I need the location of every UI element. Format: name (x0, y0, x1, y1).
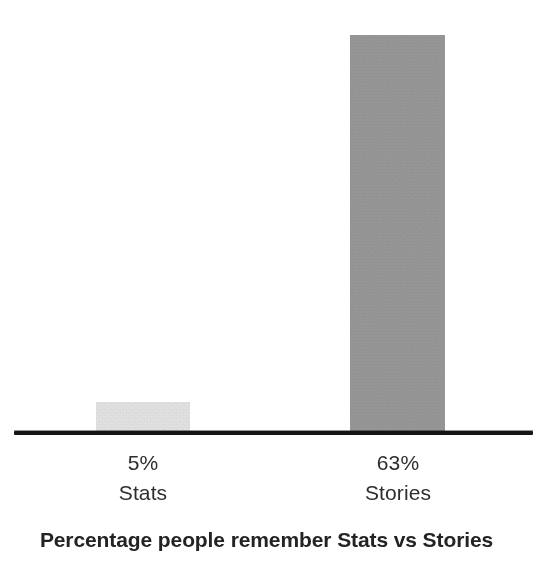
bar-stories (350, 35, 445, 434)
category-label-stats: 5% Stats (63, 448, 223, 508)
chart-title: Percentage people remember Stats vs Stor… (0, 528, 533, 552)
category-name-stories: Stories (318, 478, 478, 508)
x-axis-baseline (14, 431, 533, 435)
category-label-stories: 63% Stories (318, 448, 478, 508)
category-name-stats: Stats (63, 478, 223, 508)
bar-value-label-stats: 5% (63, 448, 223, 478)
plot-area (0, 0, 533, 438)
bar-chart-figure: 5% Stats 63% Stories Percentage people r… (0, 0, 533, 561)
bar-value-label-stories: 63% (318, 448, 478, 478)
